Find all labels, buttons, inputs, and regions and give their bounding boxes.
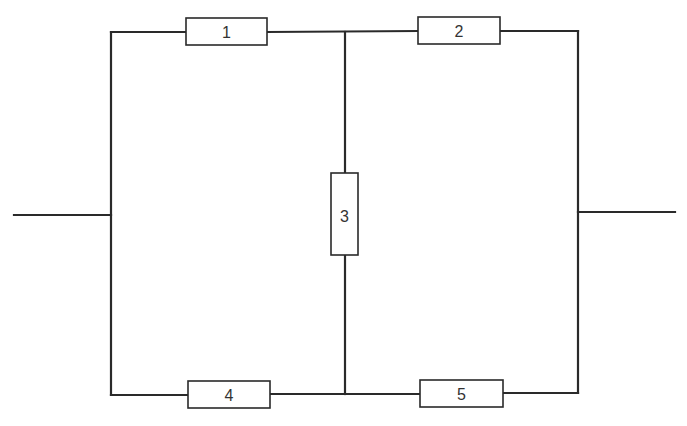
component-5-label: 5 [457,386,466,403]
top-wire-middle [267,31,418,32]
component-4: 4 [188,381,270,408]
component-3-label: 3 [340,208,349,225]
component-1-label: 1 [222,24,231,41]
bridge-circuit-diagram: 1 2 3 4 5 [0,0,687,426]
component-3: 3 [331,173,358,255]
component-2-label: 2 [455,23,464,40]
component-4-label: 4 [225,387,234,404]
component-5: 5 [420,380,503,407]
component-1: 1 [186,18,267,45]
component-2: 2 [418,17,500,44]
